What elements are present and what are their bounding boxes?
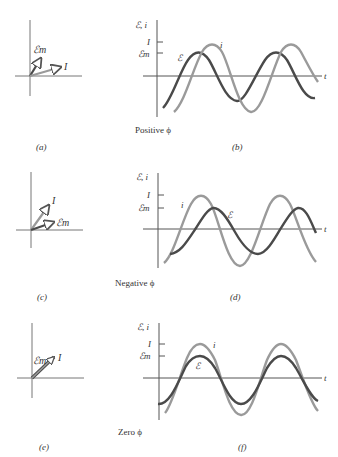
tick-label-I: I (146, 37, 151, 47)
emf-phasor-label: ℰm (56, 217, 69, 228)
tick-label-I: I (147, 339, 152, 349)
emf-phasor-label: ℰm (33, 44, 46, 55)
waveform-graph-b: ℰ, i t I ℰm ℰ i (135, 20, 327, 117)
current-curve (164, 196, 316, 266)
y-axis-label: ℰ, i (137, 322, 150, 332)
emf-curve-label: ℰ (227, 210, 234, 220)
waveform-graph-f: ℰ, i t I ℰm i ℰ (137, 322, 327, 420)
phasor-diagram-a: ℰm I (15, 20, 82, 96)
phase-label-negative: Negative ϕ (115, 278, 155, 288)
y-axis-label: ℰ, i (136, 172, 149, 182)
caption-f: (f) (238, 442, 247, 452)
emf-curve-label: ℰ (195, 361, 202, 371)
tick-label-Em: ℰm (138, 203, 150, 213)
current-phasor-label: I (57, 352, 62, 363)
phase-label-zero: Zero ϕ (118, 427, 142, 437)
current-phasor-label: I (51, 195, 56, 206)
waveform-graph-d: ℰ, i t I ℰm i ℰ (136, 172, 327, 268)
caption-c: (c) (37, 292, 47, 302)
phasor-diagram-e: ℰm I (17, 323, 84, 398)
tick-label-I: I (146, 190, 151, 200)
emf-curve (158, 356, 318, 404)
current-phasor-label: I (63, 61, 68, 72)
caption-a: (a) (36, 142, 47, 152)
tick-label-Em: ℰm (138, 49, 150, 59)
current-curve-label: i (213, 340, 216, 350)
current-curve-label: i (181, 200, 184, 210)
emf-phasor-label: ℰm (33, 355, 46, 366)
phasor-figure: ℰm I (a) ℰ, i t I ℰm ℰ i Positive ϕ (b) … (0, 0, 338, 457)
x-axis-label: t (324, 373, 327, 383)
phase-label-positive: Positive ϕ (135, 125, 171, 135)
caption-d: (d) (230, 292, 241, 302)
caption-e: (e) (39, 442, 49, 452)
current-curve-label: i (220, 40, 223, 50)
tick-label-Em: ℰm (139, 351, 151, 361)
y-axis-label: ℰ, i (135, 20, 148, 30)
x-axis-label: t (324, 71, 327, 81)
caption-b: (b) (232, 142, 243, 152)
emf-curve-label: ℰ (177, 53, 184, 63)
x-axis-label: t (324, 224, 327, 234)
phasor-diagram-c: I ℰm (16, 172, 83, 248)
